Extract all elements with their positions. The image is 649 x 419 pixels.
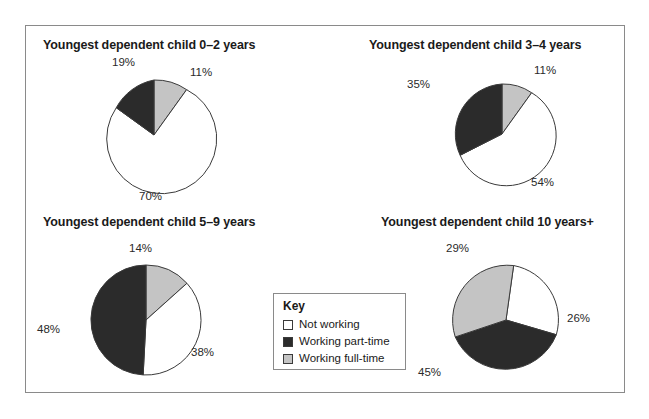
pie-label-3-4-not-working: 54% [531, 176, 554, 188]
pie-label-5-9-working-full-time: 14% [129, 242, 152, 254]
chart-title-0-2-years: Youngest dependent child 0–2 years [43, 38, 255, 52]
legend-key-box: Key Not working Working part-time Workin… [273, 293, 406, 370]
pie-slices-10-years-plus [453, 265, 559, 369]
slice-working-part-time [91, 265, 146, 375]
pie-label-0-2-working-part-time: 19% [112, 56, 135, 68]
pie-label-10-plus-working-full-time: 29% [446, 242, 469, 254]
legend-item-not-working: Not working [283, 316, 405, 333]
legend-item-working-part-time: Working part-time [283, 333, 405, 350]
pie-label-5-9-not-working: 38% [191, 346, 214, 358]
legend-swatch-working-part-time [283, 337, 293, 347]
legend-item-working-full-time: Working full-time [283, 350, 405, 367]
pie-slices-3-4-years [455, 84, 556, 186]
pie-label-10-plus-working-part-time: 45% [418, 366, 441, 378]
pie-label-0-2-not-working: 70% [139, 190, 162, 202]
pie-svg-5-9-years [90, 264, 202, 376]
chart-title-5-9-years: Youngest dependent child 5–9 years [43, 215, 255, 229]
pie-chart-5-9-years [90, 264, 202, 376]
pie-label-3-4-working-full-time: 11% [534, 64, 556, 76]
legend-label-not-working: Not working [299, 318, 360, 331]
legend-label-working-part-time: Working part-time [299, 335, 390, 348]
pie-svg-10-years-plus [450, 264, 562, 376]
pie-label-0-2-working-full-time: 11% [190, 66, 212, 78]
chart-title-10-years-plus: Youngest dependent child 10 years+ [381, 215, 594, 229]
legend-swatch-working-full-time [283, 354, 293, 364]
figure-frame: Youngest dependent child 0–2 years 19% 1… [25, 25, 625, 393]
pie-label-10-plus-not-working: 26% [567, 312, 590, 324]
pie-svg-0-2-years [98, 79, 210, 191]
pie-svg-3-4-years [451, 83, 553, 185]
pie-label-5-9-working-part-time: 48% [37, 323, 60, 335]
legend-swatch-not-working [283, 320, 293, 330]
pie-slices-0-2-years [107, 80, 217, 194]
pie-chart-3-4-years [451, 83, 553, 185]
pie-chart-0-2-years [98, 79, 210, 191]
pie-chart-10-years-plus [450, 264, 562, 376]
legend-title: Key [283, 299, 405, 313]
pie-label-3-4-working-part-time: 35% [407, 78, 430, 90]
chart-title-3-4-years: Youngest dependent child 3–4 years [369, 38, 581, 52]
pie-slices-5-9-years [91, 265, 201, 375]
legend-label-working-full-time: Working full-time [299, 352, 384, 365]
